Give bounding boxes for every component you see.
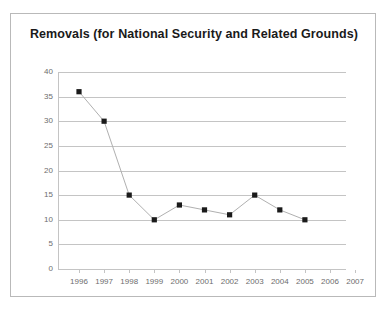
series-polyline [79, 92, 305, 220]
x-axis-tick-mark [104, 270, 105, 273]
chart-frame: Removals (for National Security and Rela… [10, 13, 376, 297]
data-point-marker [76, 89, 81, 94]
x-axis-tick-label: 2007 [338, 277, 372, 286]
data-point-marker [252, 193, 257, 198]
y-axis-tick-label: 10 [23, 216, 53, 224]
y-axis-tick-label: 25 [23, 142, 53, 150]
y-axis-tick-label: 20 [23, 167, 53, 175]
data-series-line [58, 72, 346, 269]
y-axis-tick-label: 35 [23, 93, 53, 101]
data-point-marker [102, 119, 107, 124]
data-point-markers [76, 89, 307, 222]
y-axis-tick-label: 0 [23, 265, 53, 273]
x-axis-tick-mark [205, 270, 206, 273]
x-axis-tick-mark [79, 270, 80, 273]
data-point-marker [227, 212, 232, 217]
data-point-marker [152, 217, 157, 222]
data-point-marker [277, 207, 282, 212]
x-axis-tick-mark [305, 270, 306, 273]
x-axis-tick-mark [355, 270, 356, 273]
data-point-marker [127, 193, 132, 198]
x-axis-tick-mark [280, 270, 281, 273]
x-axis-tick-labels: 1996199719981999200020012002200320042005… [58, 277, 346, 289]
data-point-marker [302, 217, 307, 222]
plot-area [58, 72, 346, 269]
y-axis-tick-label: 30 [23, 117, 53, 125]
x-axis-tick-mark [154, 270, 155, 273]
data-point-marker [202, 207, 207, 212]
chart-title: Removals (for National Security and Rela… [29, 26, 359, 43]
x-axis-tick-mark [330, 270, 331, 273]
y-axis-tick-labels: 0510152025303540 [19, 72, 53, 269]
data-point-marker [177, 202, 182, 207]
x-axis-tick-mark [129, 270, 130, 273]
x-axis-tick-mark [179, 270, 180, 273]
y-axis-tick-label: 15 [23, 191, 53, 199]
x-axis-tick-mark [255, 270, 256, 273]
y-axis-tick-label: 5 [23, 240, 53, 248]
x-axis-tick-mark [230, 270, 231, 273]
x-axis-tick-marks [58, 270, 346, 274]
y-axis-tick-label: 40 [23, 68, 53, 76]
